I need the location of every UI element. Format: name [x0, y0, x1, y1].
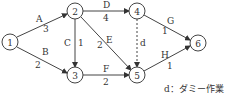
node-label-6: 6 — [195, 39, 201, 49]
edge-duration-D: 4 — [103, 13, 109, 23]
edge-label-E: E — [106, 35, 113, 45]
node-2: 2 — [67, 3, 83, 19]
node-3: 3 — [67, 67, 83, 83]
edge-D: D 4 — [83, 0, 129, 23]
edge-label-F: F — [103, 64, 109, 74]
edge-C: C 1 — [64, 19, 84, 67]
edge-label-D: D — [103, 0, 110, 10]
edge-dummy-d: d — [137, 19, 146, 67]
edge-duration-E: 2 — [97, 40, 103, 50]
node-4: 4 — [129, 3, 145, 19]
edge-label-G: G — [167, 16, 174, 26]
edge-label-d: d — [140, 38, 146, 48]
node-label-1: 1 — [7, 38, 13, 48]
edge-label-C: C — [64, 38, 71, 48]
node-label-2: 2 — [72, 7, 78, 17]
node-6: 6 — [190, 35, 206, 51]
edge-G: G 1 — [144, 15, 190, 40]
edge-duration-H: 1 — [167, 61, 173, 71]
edge-A: A 3 — [17, 14, 67, 37]
edge-label-A: A — [35, 14, 43, 24]
edge-label-B: B — [42, 47, 49, 57]
edge-duration-C: 1 — [78, 38, 84, 48]
dummy-activity-legend: d：ダミー作業 — [164, 82, 224, 95]
edge-duration-G: 1 — [162, 26, 168, 36]
node-label-3: 3 — [72, 71, 78, 81]
edge-duration-A: 3 — [43, 24, 49, 34]
edge-E: E 2 — [81, 17, 131, 70]
node-1: 1 — [2, 34, 18, 50]
edge-label-H: H — [161, 50, 169, 60]
edge-duration-F: 2 — [103, 77, 109, 87]
node-label-5: 5 — [134, 71, 140, 81]
edge-H: H 1 — [144, 46, 190, 71]
node-label-4: 4 — [134, 7, 140, 17]
edge-F: F 2 — [83, 64, 129, 87]
edge-B: B 2 — [17, 47, 67, 73]
edge-duration-B: 2 — [35, 60, 41, 70]
node-5: 5 — [129, 67, 145, 83]
